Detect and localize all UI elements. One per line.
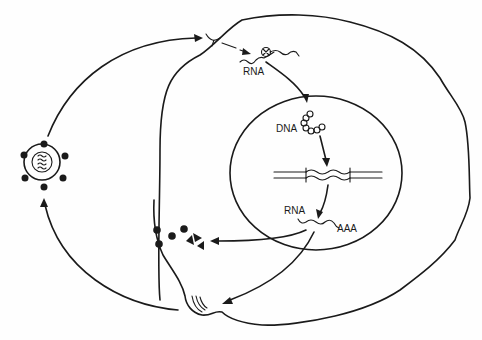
nucleus [230, 96, 402, 250]
virion [21, 141, 69, 191]
label-rna-entry: RNA [243, 66, 264, 77]
arrow-packaging [230, 232, 314, 300]
label-poly-a: AAA [337, 223, 357, 234]
envelope-glycoprotein-icon [41, 141, 48, 148]
label-dna: DNA [276, 123, 297, 134]
uncoated-rna [240, 48, 299, 64]
integrated-provirus [274, 168, 382, 182]
retrovirus-lifecycle-diagram: RNA DNA RNA AAA [0, 0, 482, 340]
arrow-integration [320, 136, 326, 160]
arrow-reverse-transcription [266, 62, 304, 96]
circular-dna [301, 111, 325, 134]
budding-site [192, 296, 207, 312]
viral-mrna [298, 219, 339, 228]
arrow-virion-to-cell [48, 38, 196, 136]
arrow-translation [218, 230, 306, 241]
label-rna-transcript: RNA [284, 205, 305, 216]
viral-proteins [153, 225, 204, 250]
arrow-transcription [320, 185, 328, 213]
